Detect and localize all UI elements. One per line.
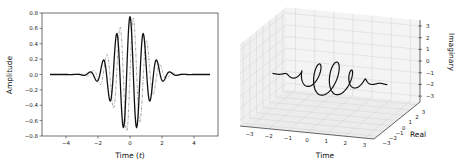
- y-tick-label: 0.8: [29, 10, 38, 16]
- y-tick-label: 0.2: [29, 56, 38, 62]
- complex-helix-3d-plot: −3−2−10123−3−2−10123−3−2−10123 Time Real…: [240, 7, 456, 160]
- tick-label: 3: [426, 23, 430, 29]
- tick-label: 0: [305, 137, 309, 143]
- y-axis-ticks: −0.8−0.6−0.4−0.20.00.20.40.60.8: [25, 10, 42, 139]
- tick-label: −3: [426, 93, 435, 99]
- tick-label: 2: [415, 114, 419, 120]
- tick-label: −2: [426, 81, 434, 87]
- tick-label: 2: [426, 35, 430, 41]
- x-tick-label: −4: [62, 140, 71, 146]
- tick-label: 0: [402, 125, 406, 131]
- x-axis-ticks: −4−2024: [62, 136, 196, 146]
- tick-label: 1: [324, 138, 328, 144]
- tick-label: 3: [422, 109, 426, 115]
- x-tick-label: 2: [160, 140, 164, 146]
- wave-packet-plot: −0.8−0.6−0.4−0.20.00.20.40.60.8 −4−2024 …: [5, 10, 218, 160]
- real-axis-label: Real: [410, 130, 426, 139]
- tick-label: −3: [382, 140, 391, 146]
- x-tick-label: 4: [192, 140, 196, 146]
- tick-label: −1: [284, 135, 292, 141]
- y-tick-label: −0.2: [25, 87, 38, 93]
- tick-label: 3: [363, 142, 367, 148]
- x-axis-label: Time (t): [114, 151, 145, 160]
- tick-label: 0: [426, 58, 430, 64]
- y-tick-label: −0.4: [25, 102, 39, 108]
- y-tick-label: 0.6: [29, 25, 38, 31]
- tick-label: −3: [246, 131, 255, 137]
- tick-label: 2: [344, 140, 348, 146]
- tick-label: −2: [389, 135, 397, 141]
- tick-label: −1: [426, 70, 434, 76]
- tick-label: −1: [395, 130, 403, 136]
- y-tick-label: 0.0: [29, 72, 38, 78]
- x-tick-label: 0: [128, 140, 132, 146]
- tick-label: −2: [265, 133, 273, 139]
- y-axis-label: Amplitude: [5, 55, 14, 94]
- tick-label: 1: [426, 46, 430, 52]
- imaginary-axis-label: Imaginary: [447, 33, 456, 71]
- y-tick-label: 0.4: [29, 41, 38, 47]
- x-tick-label: −2: [94, 140, 102, 146]
- tick-label: 1: [409, 119, 413, 125]
- figure: −0.8−0.6−0.4−0.20.00.20.40.60.8 −4−2024 …: [0, 0, 459, 163]
- y-tick-label: −0.8: [25, 133, 39, 139]
- y-tick-label: −0.6: [25, 118, 39, 124]
- time-axis-label: Time: [315, 151, 335, 160]
